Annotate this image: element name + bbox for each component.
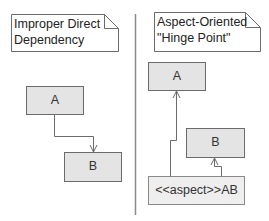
right-class-b-label: B (186, 135, 245, 149)
right-class-a-label: A (148, 69, 206, 83)
aspect-ab-label: <<aspect>>AB (148, 183, 245, 197)
aspect-to-b-arrow (211, 158, 222, 177)
left-note-line-1: Improper Direct (14, 17, 100, 32)
right-note-line-2: "Hinge Point" (157, 31, 231, 46)
aspect-to-a-arrow (171, 91, 181, 177)
left-note-line-2: Dependency (14, 33, 84, 48)
left-class-b-label: B (64, 159, 122, 173)
right-note-line-1: Aspect-Oriented (157, 15, 247, 30)
left-dependency-arrow (55, 115, 98, 153)
left-class-a-label: A (26, 93, 84, 107)
